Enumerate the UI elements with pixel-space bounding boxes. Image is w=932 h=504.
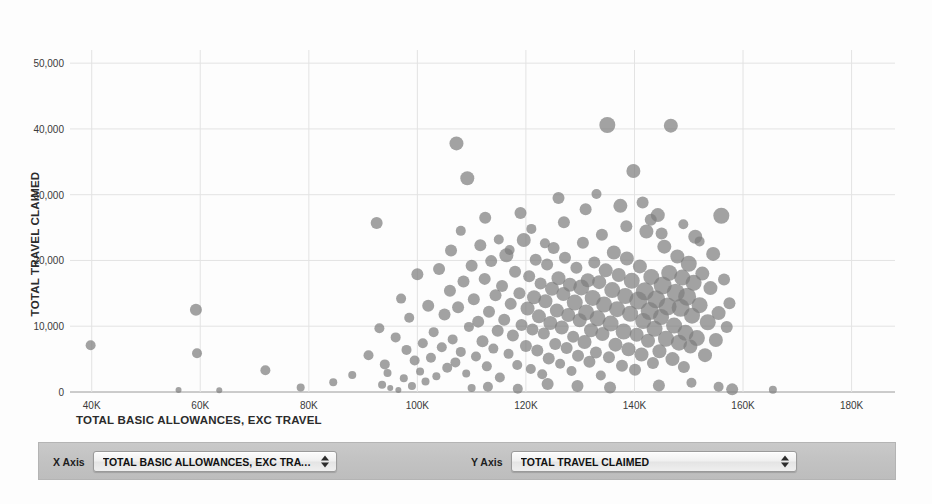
- x-tick-label: 140K: [623, 400, 646, 411]
- y-axis-title: TOTAL TRAVEL CLAIMED: [29, 149, 41, 339]
- x-axis-title: TOTAL BASIC ALLOWANCES, EXC TRAVEL: [76, 414, 322, 426]
- chart-area: 010,00020,00030,00040,00050,000 40K60K80…: [0, 0, 932, 432]
- x-tick-label: 60K: [191, 400, 209, 411]
- stepper-updown-icon[interactable]: [780, 453, 791, 470]
- y-axis-select-value: TOTAL TRAVEL CLAIMED: [521, 456, 650, 468]
- y-tick-label: 50,000: [8, 58, 64, 69]
- chevron-down-icon: [781, 463, 789, 468]
- x-tick-label: 80K: [300, 400, 318, 411]
- y-axis-select[interactable]: TOTAL TRAVEL CLAIMED: [511, 451, 797, 472]
- y-axis-control-label: Y Axis: [471, 456, 503, 468]
- x-tick-label: 100K: [406, 400, 429, 411]
- x-tick-label: 40K: [83, 400, 101, 411]
- axis-control-bar: X Axis TOTAL BASIC ALLOWANCES, EXC TRAVE…: [38, 442, 896, 480]
- x-axis-control-label: X Axis: [53, 456, 85, 468]
- x-axis-control-group: X Axis TOTAL BASIC ALLOWANCES, EXC TRAVE…: [53, 451, 337, 472]
- y-axis-control-group: Y Axis TOTAL TRAVEL CLAIMED: [471, 451, 797, 472]
- x-tick-label: 180K: [840, 400, 863, 411]
- stepper-updown-icon[interactable]: [320, 453, 331, 470]
- scatter-plot-svg: [0, 0, 932, 432]
- y-tick-label: 40,000: [8, 123, 64, 134]
- x-tick-label: 120K: [514, 400, 537, 411]
- x-axis-select[interactable]: TOTAL BASIC ALLOWANCES, EXC TRAVEL: [93, 451, 337, 472]
- chevron-down-icon: [321, 463, 329, 468]
- x-tick-label: 160K: [731, 400, 754, 411]
- chevron-up-icon: [781, 456, 789, 461]
- scatterplot-app: 010,00020,00030,00040,00050,000 40K60K80…: [0, 0, 932, 504]
- chevron-up-icon: [321, 456, 329, 461]
- y-tick-label: 0: [8, 387, 64, 398]
- x-axis-select-value: TOTAL BASIC ALLOWANCES, EXC TRAVEL: [103, 456, 312, 468]
